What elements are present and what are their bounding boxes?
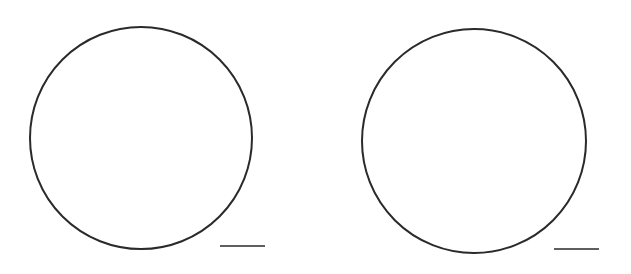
outline-circle [30, 27, 252, 249]
right-panel [362, 29, 599, 253]
diagram-canvas [0, 0, 631, 274]
outline-circle [362, 29, 586, 253]
left-panel [30, 27, 265, 249]
